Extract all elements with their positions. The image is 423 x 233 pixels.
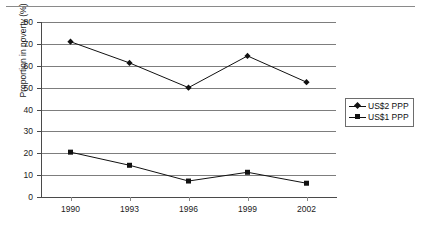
y-tick-label: 30 xyxy=(8,127,33,136)
data-point-marker xyxy=(185,85,191,91)
y-tick-label: 50 xyxy=(8,84,33,93)
line-chart: Proportion in poverty (%) 01020304050607… xyxy=(0,0,423,233)
y-tick-label: 20 xyxy=(8,149,33,158)
legend-label: US$2 PPP xyxy=(366,101,409,112)
square-marker-icon xyxy=(349,112,366,123)
x-tick-label: 1993 xyxy=(107,205,153,214)
y-tick-label: 40 xyxy=(8,106,33,115)
series-plot xyxy=(41,22,336,198)
y-tick-label: 60 xyxy=(8,62,33,71)
y-tick-label: 10 xyxy=(8,171,33,180)
series-line xyxy=(71,42,307,88)
data-point-marker xyxy=(186,179,191,184)
legend-entry[interactable]: US$2 PPP xyxy=(349,101,409,112)
data-point-marker xyxy=(126,60,132,66)
chart-legend: US$2 PPPUS$1 PPP xyxy=(345,98,414,127)
chart-page: Proportion in poverty (%) 01020304050607… xyxy=(0,0,423,233)
x-tick-label: 1996 xyxy=(166,205,212,214)
legend-entry[interactable]: US$1 PPP xyxy=(349,112,409,123)
data-point-marker xyxy=(244,53,250,59)
data-point-marker xyxy=(245,170,250,175)
x-tick-label: 1990 xyxy=(48,205,94,214)
data-point-marker xyxy=(127,163,132,168)
x-tick-label: 1999 xyxy=(225,205,271,214)
x-tick-label: 2002 xyxy=(284,205,330,214)
diamond-marker-icon xyxy=(349,101,366,112)
data-point-marker xyxy=(68,150,73,155)
data-point-marker xyxy=(304,181,309,186)
legend-label: US$1 PPP xyxy=(366,112,409,123)
data-point-marker xyxy=(303,79,309,85)
y-tick-label: 70 xyxy=(8,40,33,49)
y-tick-label: 80 xyxy=(8,18,33,27)
data-point-marker xyxy=(67,39,73,45)
y-tick-label: 0 xyxy=(8,193,33,202)
